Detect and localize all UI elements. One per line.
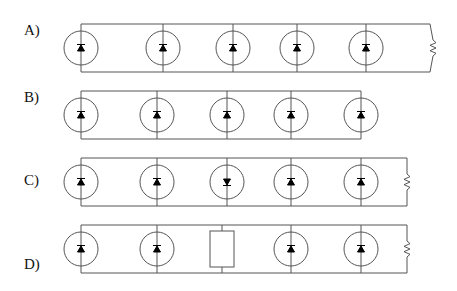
diode-up-icon	[153, 179, 161, 186]
led-1-up	[64, 225, 98, 273]
diode-up-icon	[287, 179, 295, 186]
diode-up-icon	[77, 246, 85, 253]
led-1-up	[64, 91, 98, 139]
circuit-option-a	[64, 24, 436, 72]
diode-up-icon	[77, 179, 85, 186]
led-2-up	[140, 158, 174, 206]
led-4-up	[274, 158, 308, 206]
box-component-icon	[210, 225, 234, 273]
led-4-up	[274, 225, 308, 273]
led-4-up	[280, 24, 314, 72]
led-2-up	[146, 24, 180, 72]
diode-up-icon	[159, 45, 167, 52]
diode-up-icon	[153, 246, 161, 253]
diode-up-icon	[153, 112, 161, 119]
resistor-icon	[430, 24, 436, 72]
led-4-up	[274, 91, 308, 139]
diode-up-icon	[77, 45, 85, 52]
led-5-up	[344, 91, 378, 139]
diode-up-icon	[357, 179, 365, 186]
led-3-up	[210, 91, 244, 139]
diode-up-icon	[362, 45, 370, 52]
led-1-up	[64, 158, 98, 206]
circuit-option-b	[64, 91, 378, 139]
diode-up-icon	[287, 246, 295, 253]
circuit-diagram	[0, 0, 457, 291]
diode-up-icon	[293, 45, 301, 52]
led-1-up	[64, 24, 98, 72]
led-2-up	[140, 91, 174, 139]
diode-up-icon	[357, 246, 365, 253]
led-5-up	[344, 225, 378, 273]
led-2-up	[140, 225, 174, 273]
led-5-up	[344, 158, 378, 206]
diode-up-icon	[287, 112, 295, 119]
diode-up-icon	[229, 45, 237, 52]
led-3-up	[216, 24, 250, 72]
resistor-icon	[404, 158, 410, 206]
diode-up-icon	[77, 112, 85, 119]
diode-down-icon	[223, 179, 231, 186]
diode-up-icon	[357, 112, 365, 119]
led-5-up	[349, 24, 383, 72]
circuit-option-c	[64, 158, 410, 206]
diode-up-icon	[223, 112, 231, 119]
resistor-icon	[404, 225, 410, 273]
led-3-down	[210, 158, 244, 206]
circuit-option-d	[64, 225, 410, 273]
